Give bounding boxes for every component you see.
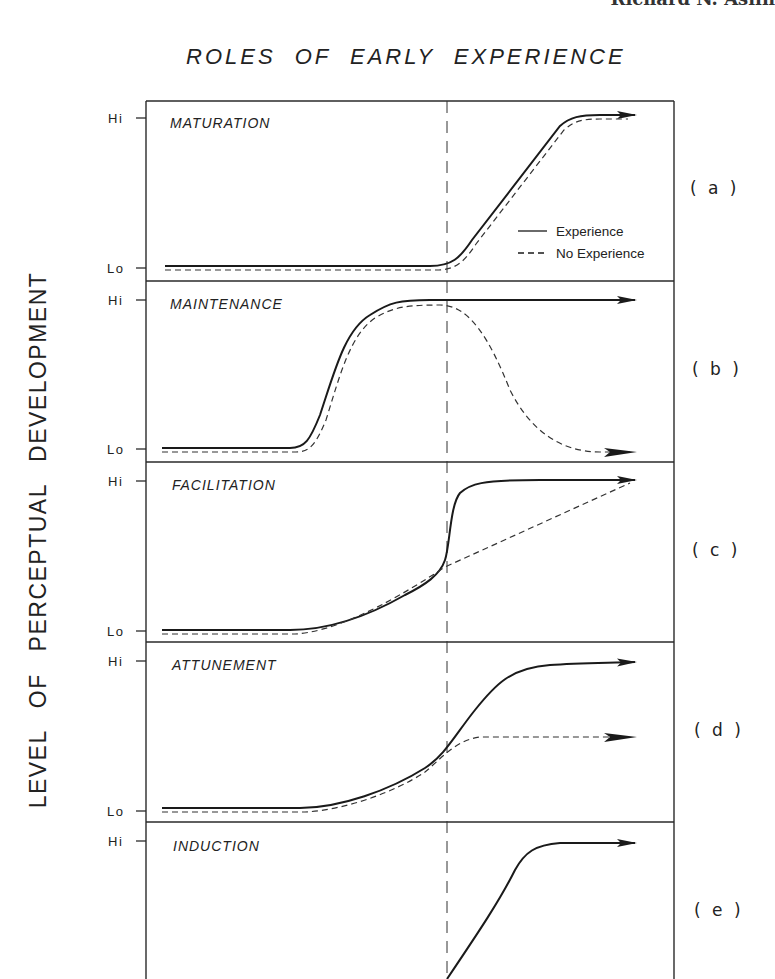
panel-d-curves [162, 662, 637, 812]
panel-name-maintenance: MAINTENANCE [170, 296, 283, 312]
tick-hi-d: Hi [108, 654, 123, 669]
panel-letter-c: ( c ) [692, 540, 740, 560]
panel-letter-d: ( d ) [694, 720, 744, 740]
legend-no-experience: No Experience [556, 246, 645, 261]
tick-lo-d: Lo [107, 804, 124, 819]
panel-c-curves [162, 480, 635, 634]
tick-lo-c: Lo [107, 624, 124, 639]
panel-letter-e: ( e ) [694, 900, 744, 920]
panel-name-attunement: ATTUNEMENT [171, 657, 277, 673]
y-ticks [136, 118, 146, 841]
panel-b-curves [162, 300, 637, 457]
legend: Experience No Experience [518, 224, 645, 261]
curve-no-experience [162, 483, 630, 634]
legend-experience: Experience [556, 224, 624, 239]
panel-name-induction: INDUCTION [173, 838, 260, 854]
tick-hi-a: Hi [108, 111, 123, 126]
curve-no-experience [162, 737, 630, 812]
curve-experience [162, 480, 635, 630]
curve-experience [165, 115, 635, 266]
tick-hi-e: Hi [108, 834, 123, 849]
figure-canvas: Hi Lo Hi Lo Hi Lo Hi Lo Hi MATURATION MA… [0, 0, 775, 979]
panel-name-maturation: MATURATION [170, 115, 270, 131]
panel-e-curves [447, 843, 635, 979]
curve-experience [162, 300, 635, 448]
tick-hi-c: Hi [108, 474, 123, 489]
curve-experience [447, 843, 635, 979]
panel-letter-a: ( a ) [690, 178, 740, 198]
panel-name-facilitation: FACILITATION [172, 477, 276, 493]
curve-no-experience [162, 305, 630, 452]
tick-hi-b: Hi [108, 293, 123, 308]
tick-lo-a: Lo [107, 261, 124, 276]
panel-letter-b: ( b ) [692, 359, 742, 379]
arrowhead-no-experience [604, 733, 637, 742]
tick-lo-b: Lo [107, 442, 124, 457]
